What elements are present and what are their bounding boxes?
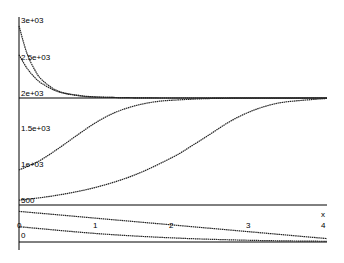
x-tick-2: 2 <box>169 222 173 230</box>
x-axis-label: x <box>321 211 325 219</box>
y-tick-2000: 2e+03 <box>21 90 43 98</box>
y-tick-lower-0: 0 <box>21 232 25 240</box>
series-decay-low <box>19 55 327 98</box>
series-logistic-slow <box>19 98 327 200</box>
y-tick-3000: 3e+03 <box>21 17 43 25</box>
x-tick-3: 3 <box>246 222 250 230</box>
series-decay-high <box>19 26 327 98</box>
x-tick-1: 1 <box>93 222 97 230</box>
y-tick-1500: 1.5e+03 <box>21 125 50 133</box>
x-tick-0: 0 <box>17 222 21 230</box>
x-tick-4: 4 <box>321 222 325 230</box>
series-logistic-fast <box>19 98 327 170</box>
y-tick-500: 500 <box>21 197 34 205</box>
y-tick-2500: 2.5e+03 <box>21 54 50 62</box>
y-tick-1000: 1e+03 <box>21 161 43 169</box>
